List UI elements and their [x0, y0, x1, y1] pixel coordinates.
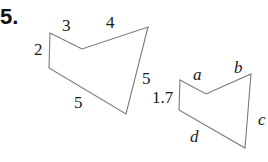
small-side-top-left-label: a [193, 65, 202, 84]
small-side-right-label: c [258, 110, 266, 129]
large-pentagon [49, 27, 148, 114]
similar-polygons-diagram: 5. 2 3 4 5 5 1.7 a b c d [0, 0, 268, 162]
large-side-bottom-label: 5 [74, 93, 83, 112]
large-side-top-right-label: 4 [106, 13, 115, 32]
small-side-bottom-label: d [190, 127, 199, 146]
problem-number: 5. [0, 4, 18, 29]
large-side-top-left-label: 3 [62, 16, 71, 35]
large-side-left-label: 2 [34, 40, 43, 59]
small-side-top-right-label: b [234, 58, 243, 77]
small-side-left-label: 1.7 [152, 88, 174, 107]
large-side-right-label: 5 [142, 69, 151, 88]
